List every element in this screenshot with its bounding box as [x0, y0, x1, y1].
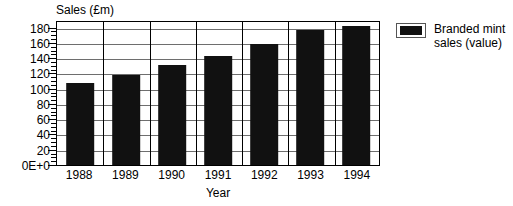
plot-area: [56, 21, 380, 166]
y-axis-tick-label: 180: [30, 23, 50, 35]
y-axis-tick-label: 120: [30, 68, 50, 80]
y-axis-tick-major: [48, 58, 56, 59]
y-axis-tick-major: [48, 89, 56, 90]
x-axis-tick-label: 1994: [334, 168, 380, 182]
x-axis-title: Year: [56, 186, 380, 200]
y-axis-tick-label: 0E+0: [22, 160, 50, 172]
bar-cell: [287, 22, 333, 165]
y-axis-tick-label: 160: [30, 38, 50, 50]
bar-cell: [57, 22, 103, 165]
bar-cell: [333, 22, 379, 165]
bar-cell: [195, 22, 241, 165]
legend-label-branded-mint: Branded mint sales (value): [434, 22, 505, 50]
x-axis-tick-label: 1989: [102, 168, 148, 182]
y-axis-title: Sales (£m): [56, 3, 114, 17]
bar-1994: [342, 26, 370, 165]
y-axis-tick-major: [48, 43, 56, 44]
x-axis-tick-label: 1988: [56, 168, 102, 182]
bar-1988: [66, 83, 94, 165]
chart-legend: Branded mint sales (value): [396, 22, 505, 50]
bar-cell: [241, 22, 287, 165]
bar-1992: [250, 44, 278, 165]
bar-cell: [103, 22, 149, 165]
y-axis-tick-labels: 0E+020406080100120140160180: [0, 21, 50, 166]
bar-chart-figure: Sales (£m) 0E+020406080100120140160180 1…: [0, 0, 513, 206]
x-axis-tick-label: 1992: [241, 168, 287, 182]
y-axis-tick-major: [48, 104, 56, 105]
x-axis-tick-label: 1993: [287, 168, 333, 182]
y-axis-tick-marks: [48, 21, 56, 166]
y-axis-tick-major: [48, 73, 56, 74]
filled-square-icon: [400, 26, 422, 35]
bar-1989: [112, 75, 140, 165]
bar-cell: [149, 22, 195, 165]
legend-label-line2: sales (value): [434, 36, 505, 50]
bar-series-branded-mint-sales: [57, 22, 379, 165]
x-axis-tick-labels: 1988198919901991199219931994: [56, 168, 380, 182]
y-axis-tick-major: [48, 28, 56, 29]
x-axis-tick-label: 1991: [195, 168, 241, 182]
y-axis-tick-major: [48, 165, 56, 166]
y-axis-tick-label: 140: [30, 53, 50, 65]
y-axis-tick-label: 100: [30, 84, 50, 96]
y-axis-tick-major: [48, 134, 56, 135]
bar-1990: [158, 65, 186, 165]
legend-label-line1: Branded mint: [434, 22, 505, 36]
y-axis-tick-major: [48, 119, 56, 120]
y-axis-tick-major: [48, 150, 56, 151]
bar-1991: [204, 56, 232, 165]
legend-swatch-branded-mint: [396, 23, 426, 38]
bar-1993: [296, 30, 324, 165]
x-axis-tick-label: 1990: [149, 168, 195, 182]
